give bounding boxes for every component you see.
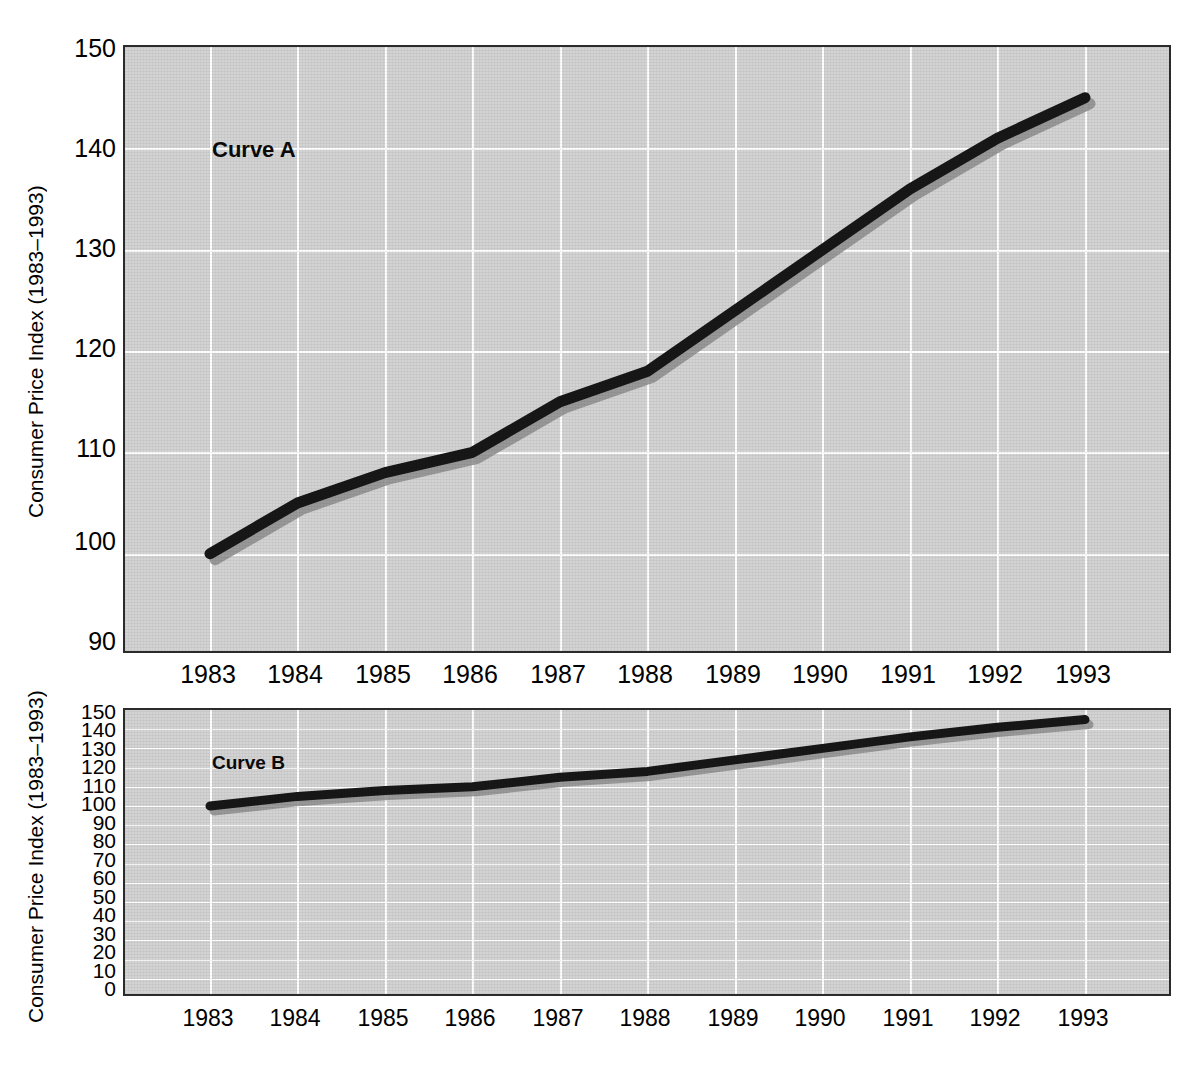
figure-root: Consumer Price Index (1983–1993) 150 140… [0,0,1178,1092]
x-tick-label: 1985 [355,660,411,689]
x-tick-label: 1993 [1057,1005,1108,1032]
x-tick-label: 1985 [357,1005,408,1032]
x-tick-label: 1984 [269,1005,320,1032]
y-tick-label: 100 [74,529,116,554]
x-tick-label: 1986 [442,660,498,689]
x-tick-label: 1992 [969,1005,1020,1032]
x-tick-label: 1984 [267,660,323,689]
x-tick-label: 1987 [532,1005,583,1032]
y-tick-label: 120 [74,336,116,361]
chart-curve-b: Consumer Price Index (1983–1993) 150 140… [0,695,1178,1092]
y-tick-label: 130 [74,236,116,261]
x-tick-label: 1991 [882,1005,933,1032]
y-tick-labels-b: 150 140 130 120 110 100 90 80 70 60 50 4… [40,695,116,1035]
x-tick-label: 1990 [794,1005,845,1032]
x-tick-label: 1983 [180,660,236,689]
x-tick-labels-a: 1983 1984 1985 1986 1987 1988 1989 1990 … [0,660,1178,694]
curve-a-annotation: Curve A [212,137,296,163]
x-tick-label: 1991 [880,660,936,689]
y-tick-label: 140 [74,136,116,161]
x-tick-label: 1989 [707,1005,758,1032]
y-tick-label: 150 [74,36,116,61]
x-tick-label: 1986 [444,1005,495,1032]
y-tick-label: 90 [88,629,116,654]
x-tick-label: 1992 [967,660,1023,689]
x-tick-labels-b: 1983 1984 1985 1986 1987 1988 1989 1990 … [0,1005,1178,1039]
x-tick-label: 1993 [1055,660,1111,689]
y-tick-labels-a: 150 140 130 120 110 100 90 [40,0,116,690]
x-tick-label: 1990 [792,660,848,689]
x-tick-label: 1988 [619,1005,670,1032]
curve-b-annotation: Curve B [212,752,285,774]
y-tick-label: 0 [104,978,116,999]
x-tick-label: 1989 [705,660,761,689]
x-tick-label: 1988 [617,660,673,689]
x-tick-label: 1983 [182,1005,233,1032]
chart-curve-a: Consumer Price Index (1983–1993) 150 140… [0,0,1178,690]
x-tick-label: 1987 [530,660,586,689]
y-tick-label: 110 [76,436,116,461]
